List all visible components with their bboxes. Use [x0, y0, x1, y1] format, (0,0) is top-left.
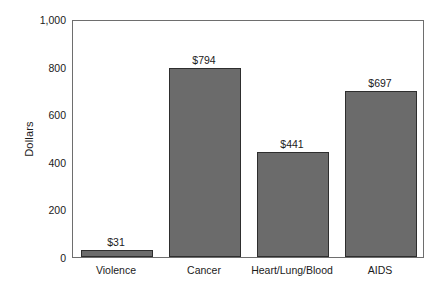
bar-value-label: $31: [76, 236, 156, 249]
bar: [169, 68, 241, 257]
bar-value-label: $697: [340, 77, 420, 90]
y-axis-tick-label: 200: [0, 204, 66, 216]
y-axis-tick-label: 400: [0, 157, 66, 169]
bar: [81, 250, 153, 257]
y-axis-title: Dollars: [22, 20, 36, 258]
plot-area: [72, 20, 424, 258]
y-axis-tick-label: 800: [0, 62, 66, 74]
bar: [345, 91, 417, 257]
y-axis-tick-label: 600: [0, 109, 66, 121]
bar-value-label: $794: [164, 54, 244, 67]
bar: [257, 152, 329, 257]
y-axis-tick-label: 1,000: [0, 14, 66, 26]
x-axis-category-label: AIDS: [320, 263, 438, 277]
bar-chart: Dollars 02004006008001,000 $31$794$441$6…: [0, 0, 438, 285]
bar-value-label: $441: [252, 138, 332, 151]
